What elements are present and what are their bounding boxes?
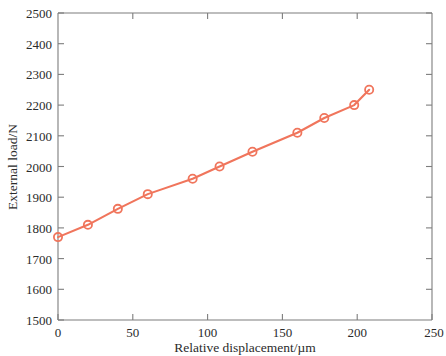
y-tick-label: 1800: [26, 221, 52, 236]
x-tick-label: 200: [347, 325, 367, 340]
x-tick-label: 100: [198, 325, 218, 340]
x-axis-title: Relative displacement/µm: [174, 340, 316, 355]
chart-figure: 2500 2400 2300 2200 2100 2000 1900 1800 …: [0, 0, 446, 356]
y-tick-label: 1500: [26, 313, 52, 328]
y-tick-label: 1700: [26, 252, 52, 267]
y-tick-label: 2000: [26, 160, 52, 175]
x-tick-label: 50: [126, 325, 139, 340]
y-tick-label: 1600: [26, 282, 52, 297]
x-tick-label: 150: [273, 325, 293, 340]
y-tick-label: 2100: [26, 129, 52, 144]
plot-area: [54, 13, 432, 320]
y-tick-label: 2200: [26, 98, 52, 113]
x-tick-label: 250: [424, 325, 444, 340]
y-axis-title: External load/N: [5, 124, 20, 210]
y-tick-label: 2500: [26, 6, 52, 21]
y-tick-label: 1900: [26, 190, 52, 205]
plot-area-rect: [58, 13, 432, 320]
y-tick-label: 2400: [26, 37, 52, 52]
y-tick-label: 2300: [26, 67, 52, 82]
x-tick-label: 0: [55, 325, 62, 340]
